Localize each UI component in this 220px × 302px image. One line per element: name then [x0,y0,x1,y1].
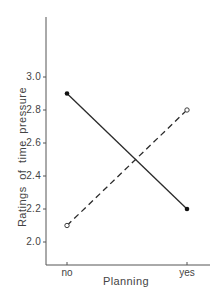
series-solid [65,91,190,211]
data-point-yes [185,108,189,112]
series-line [67,110,187,226]
data-point-yes [185,207,190,212]
series-group [65,91,190,228]
y-axis-title: Ratings of time pressure [16,77,28,237]
x-tick-label-yes: yes [172,268,202,278]
interaction-line-chart [0,0,220,302]
x-axis-title: Planning [86,275,166,287]
series-dashed [65,108,189,228]
axes [46,17,210,265]
data-point-no [65,91,70,96]
x-tick-label-no: no [52,268,82,278]
data-point-no [65,223,69,227]
y-tick-label: 2.0 [11,237,41,247]
series-line [67,94,187,210]
